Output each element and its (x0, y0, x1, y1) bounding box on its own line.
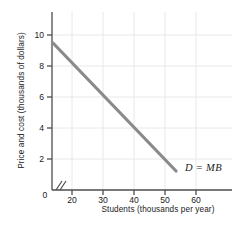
x-tick-label-50: 50 (154, 195, 176, 205)
axis-break-mark (56, 181, 66, 190)
x-axis-title: Students (thousands per year) (78, 205, 238, 214)
y-axis-title: Price and cost (thousands of dollars) (17, 26, 26, 176)
x-tick-label-30: 30 (92, 195, 114, 205)
y-axis-ticks (47, 35, 52, 159)
x-tick-label-40: 40 (123, 195, 145, 205)
chart-figure: 10 8 6 4 2 0 20 30 40 50 60 Price and co… (0, 0, 245, 229)
x-tick-label-20: 20 (61, 195, 83, 205)
x-tick-label-0: 0 (34, 190, 56, 200)
demand-marginal-benefit-curve (53, 43, 176, 171)
curve-label-demand-marginal-benefit: D = MB (185, 162, 222, 173)
x-tick-label-60: 60 (185, 195, 207, 205)
